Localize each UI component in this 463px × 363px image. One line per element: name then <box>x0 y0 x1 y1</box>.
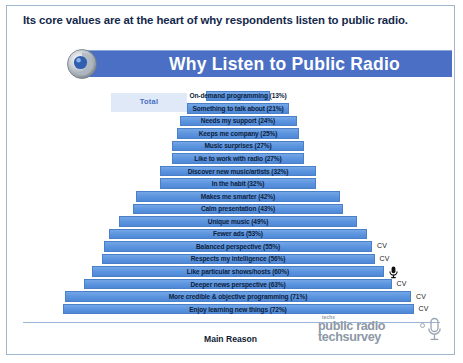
brand-line-2: techsurvey <box>318 330 381 344</box>
bar-data-label: Makes me smarter (42%) <box>106 192 371 203</box>
bar-row: Keeps me company (25%) <box>23 128 440 141</box>
bar-row: Enjoy learning new things (72%)CV <box>23 303 440 316</box>
cv-annotation: CV <box>380 255 390 262</box>
bar-data-label: Deeper news perspective (63%) <box>54 280 421 291</box>
bar-row: On-demand programming (13%) <box>23 90 440 103</box>
bar-data-label: Unique music (49%) <box>89 217 388 228</box>
brand-lockup: techs public radio techsurvey <box>318 316 442 346</box>
bar-data-label: Balanced perspective (55%) <box>74 242 402 253</box>
bar-data-label: Like to work with radio (27%) <box>142 154 334 165</box>
microphone-marker-icon <box>389 265 398 278</box>
brand-dot <box>420 323 425 328</box>
bar-row: Like particular shows/hosts (60%) <box>23 266 440 279</box>
bar-row: Fewer ads (53%) <box>23 228 440 241</box>
bar-data-label: Calm presentation (43%) <box>103 204 373 215</box>
chart-title-banner: Why Listen to Public Radio <box>79 50 452 77</box>
bar-data-label: Enjoy learning new things (72%) <box>33 305 444 316</box>
bar-row: In the habit (32%) <box>23 178 440 191</box>
bar-data-label: Something to talk about (21%) <box>157 104 319 115</box>
bar-data-label: Like particular shows/hosts (60%) <box>62 267 415 278</box>
swirl-circle-icon <box>65 47 99 81</box>
bar-rows: On-demand programming (13%)Something to … <box>23 90 440 316</box>
cv-annotation: CV <box>419 305 429 312</box>
chart-plot-area: On-demand programming (13%)Something to … <box>23 90 440 322</box>
bar-data-label: On-demand programming (13%) <box>176 91 299 102</box>
microphone-icon <box>427 317 442 344</box>
cv-annotation: CV <box>377 242 387 249</box>
bar-row: More credible & objective programming (7… <box>23 291 440 304</box>
bar-data-label: Respects my intelligence (56%) <box>72 254 405 265</box>
bar-data-label: Music surprises (27%) <box>142 141 334 152</box>
bar-data-label: Fewer ads (53%) <box>79 229 397 240</box>
bar-row: Something to talk about (21%) <box>23 103 440 116</box>
bar-row: Like to work with radio (27%) <box>23 153 440 166</box>
bar-data-label: Keeps me company (25%) <box>147 129 329 140</box>
bar-row: Deeper news perspective (63%)CV <box>23 278 440 291</box>
bar-row: Makes me smarter (42%) <box>23 190 440 203</box>
bar-data-label: More credible & objective programming (7… <box>35 292 441 303</box>
bar-row: Calm presentation (43%) <box>23 203 440 216</box>
bar-data-label: Needs my support (24%) <box>150 116 327 127</box>
cv-annotation: CV <box>397 280 407 287</box>
bar-row: Unique music (49%) <box>23 215 440 228</box>
bar-row: Needs my support (24%) <box>23 115 440 128</box>
bar-row: Balanced perspective (55%)CV <box>23 241 440 254</box>
bar-row: Music surprises (27%) <box>23 140 440 153</box>
bar-data-label: Discover new music/artists (32%) <box>130 167 346 178</box>
bar-row: Discover new music/artists (32%) <box>23 165 440 178</box>
bar-data-label: In the habit (32%) <box>130 179 346 190</box>
cv-annotation: CV <box>416 293 426 300</box>
bar-row: Respects my intelligence (56%)CV <box>23 253 440 266</box>
chart-title: Why Listen to Public Radio <box>125 54 444 75</box>
slide: Its core values are at the heart of why … <box>6 5 455 355</box>
page-title: Its core values are at the heart of why … <box>23 14 443 28</box>
